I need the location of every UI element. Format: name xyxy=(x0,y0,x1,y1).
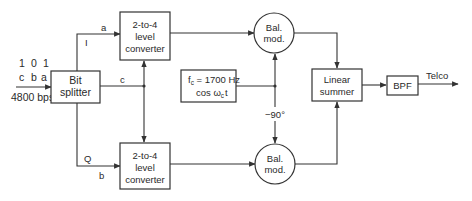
bit-rate-label: 4800 bps xyxy=(11,91,54,103)
carrier-oscillator-block: fc = 1700 Hz cos ωct xyxy=(181,70,240,102)
i-channel-line xyxy=(77,34,120,71)
telco-output-label: Telco xyxy=(426,70,448,81)
svg-text:b: b xyxy=(31,71,37,83)
svg-text:a: a xyxy=(41,71,47,83)
top-level-converter-block: 2-to-4 level converter xyxy=(120,12,170,60)
i-channel-label: I xyxy=(85,37,88,48)
svg-text:summer: summer xyxy=(320,86,354,97)
svg-text:mod.: mod. xyxy=(263,33,284,44)
bit-splitter-block: Bit splitter xyxy=(51,71,100,103)
svg-text:splitter: splitter xyxy=(60,86,91,98)
svg-text:2-to-4: 2-to-4 xyxy=(133,19,158,30)
svg-text:0: 0 xyxy=(31,57,37,69)
svg-text:converter: converter xyxy=(125,43,165,54)
svg-text:level: level xyxy=(135,31,155,42)
bpf-block: BPF xyxy=(387,76,418,95)
bottom-balanced-modulator: Bal. mod. xyxy=(255,144,295,184)
svg-text:converter: converter xyxy=(125,174,165,185)
q-channel-label: Q xyxy=(84,153,91,164)
svg-text:mod.: mod. xyxy=(264,164,285,175)
phase-shift-label: −90° xyxy=(265,109,285,120)
svg-text:Bal.: Bal. xyxy=(266,22,282,33)
svg-text:1: 1 xyxy=(43,57,49,69)
q-bit-label: b xyxy=(99,170,104,181)
bottom-balmod-to-summer xyxy=(295,102,337,164)
qpsk-8psk-modulator-diagram: 1 0 1 c b a 4800 bps Bit splitter a I Q … xyxy=(0,0,472,201)
top-balmod-to-summer xyxy=(294,33,337,68)
svg-text:1: 1 xyxy=(19,57,25,69)
c-bit-label: c xyxy=(120,74,125,85)
top-balanced-modulator: Bal. mod. xyxy=(254,13,294,53)
svg-text:Linear: Linear xyxy=(324,74,350,85)
input-bits: 1 0 1 c b a 4800 bps xyxy=(11,57,54,103)
linear-summer-block: Linear summer xyxy=(312,69,362,101)
svg-text:Bit: Bit xyxy=(69,74,81,86)
i-bit-label: a xyxy=(101,22,107,33)
svg-text:fc = 1700 Hz: fc = 1700 Hz xyxy=(188,74,240,86)
svg-text:Bal.: Bal. xyxy=(267,153,283,164)
svg-text:level: level xyxy=(135,162,155,173)
svg-text:2-to-4: 2-to-4 xyxy=(133,150,158,161)
svg-text:c: c xyxy=(19,71,24,83)
bottom-level-converter-block: 2-to-4 level converter xyxy=(120,143,170,189)
svg-text:BPF: BPF xyxy=(393,80,412,91)
